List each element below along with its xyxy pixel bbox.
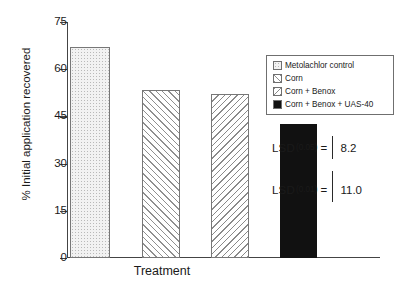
y-tick-label: 45 (11, 109, 67, 121)
lsd-annotation-001: LSD (0.01) = 11.0 (272, 177, 362, 202)
bar-corn (142, 90, 180, 258)
bar-corn-benox (211, 94, 249, 258)
legend-item-metolachlor-control: Metolachlor control (273, 61, 388, 70)
legend-swatch-hatch-forward-icon (273, 74, 282, 83)
x-axis-title: Treatment (67, 264, 257, 278)
legend-swatch-dotted-icon (273, 61, 282, 70)
lsd-level: (0.05) (296, 143, 317, 152)
lsd-bracket-marker (332, 171, 333, 202)
legend: Metolachlor control Corn Corn + Benox Co… (266, 55, 394, 115)
y-tick-label: 75 (11, 15, 67, 27)
legend-swatch-hatch-backward-icon (273, 87, 282, 96)
legend-swatch-solid-black-icon (273, 100, 282, 109)
bar-chart-figure: % Initial application recovered 75 60 45… (0, 0, 400, 285)
lsd-level: (0.01) (296, 185, 317, 194)
y-tick-label: 30 (11, 157, 67, 169)
legend-label: Corn (285, 74, 303, 83)
legend-label: Corn + Benox (285, 87, 335, 96)
legend-item-corn: Corn (273, 74, 388, 83)
legend-label: Metolachlor control (285, 61, 354, 70)
lsd-equals: = (320, 142, 327, 154)
y-tick-label: 0 (11, 251, 67, 263)
lsd-label: LSD (272, 142, 295, 154)
lsd-annotation-005: LSD (0.05) = 8.2 (272, 136, 356, 159)
bar-metolachlor-control (70, 47, 110, 258)
lsd-bracket-marker (332, 136, 333, 159)
legend-item-corn-benox-uas40: Corn + Benox + UAS-40 (273, 100, 388, 109)
y-tick-label: 60 (11, 62, 67, 74)
lsd-value: 8.2 (340, 142, 356, 154)
lsd-label: LSD (272, 184, 295, 196)
lsd-value: 11.0 (340, 184, 362, 196)
legend-label: Corn + Benox + UAS-40 (285, 100, 373, 109)
lsd-equals: = (320, 184, 327, 196)
y-tick-label: 15 (11, 204, 67, 216)
legend-item-corn-benox: Corn + Benox (273, 87, 388, 96)
